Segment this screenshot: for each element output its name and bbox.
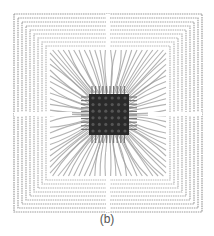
central-die [89,94,129,135]
figure-caption: (b) [0,212,214,226]
chip-routing-diagram [0,0,214,214]
